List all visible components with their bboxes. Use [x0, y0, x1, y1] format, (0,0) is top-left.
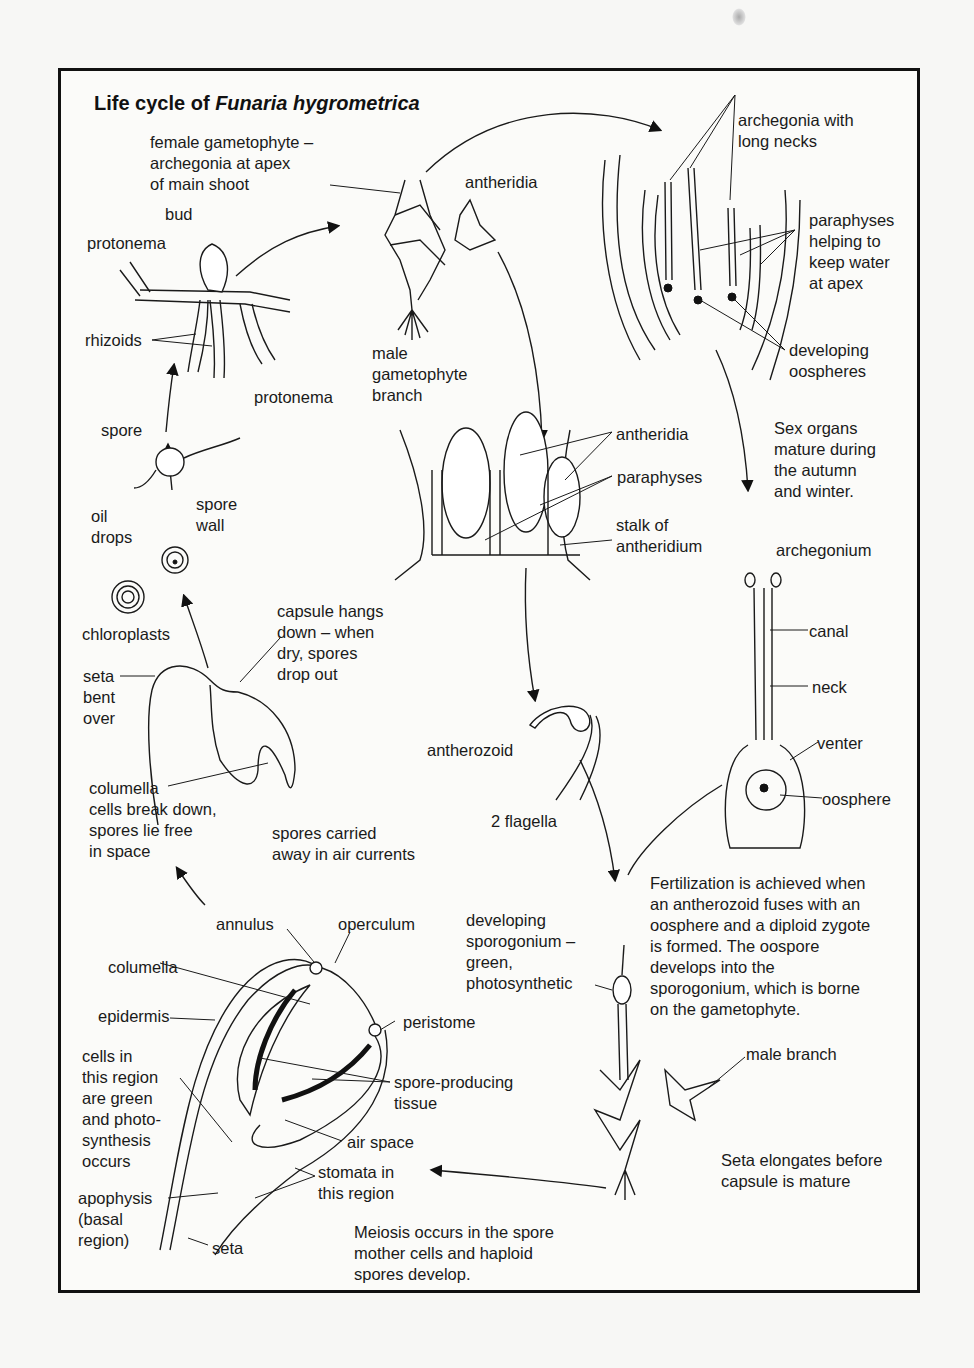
label-paraphyses-mid: paraphyses: [617, 467, 702, 488]
label-epidermis: epidermis: [98, 1006, 170, 1027]
label-male-gametophyte-branch: male gametophyte branch: [372, 343, 467, 406]
label-peristome: peristome: [403, 1012, 475, 1033]
label-protonema-mid: protonema: [254, 387, 333, 408]
label-canal: canal: [809, 621, 848, 642]
label-meiosis: Meiosis occurs in the spore mother cells…: [354, 1222, 554, 1285]
label-annulus: annulus: [216, 914, 274, 935]
label-antheridia-mid: antheridia: [616, 424, 688, 445]
label-male-branch: male branch: [746, 1044, 837, 1065]
label-venter: venter: [817, 733, 863, 754]
label-neck: neck: [812, 677, 847, 698]
label-stalk-of-antheridium: stalk of antheridium: [616, 515, 702, 557]
label-seta-bent-over: seta bent over: [83, 666, 115, 729]
label-spore-producing-tissue: spore-producing tissue: [394, 1072, 513, 1114]
archegonia-cluster-drawing: [603, 155, 800, 380]
label-seta-elongates: Seta elongates before capsule is mature: [721, 1150, 882, 1192]
label-columella: columella: [108, 957, 178, 978]
label-developing-oospheres: developing oospheres: [789, 340, 869, 382]
label-oosphere: oosphere: [822, 789, 891, 810]
label-operculum: operculum: [338, 914, 415, 935]
label-spore-wall: spore wall: [196, 494, 237, 536]
label-air-space: air space: [347, 1132, 414, 1153]
antherozoid-drawing: [530, 706, 600, 800]
label-rhizoids: rhizoids: [85, 330, 142, 351]
label-capsule-hangs: capsule hangs down – when dry, spores dr…: [277, 601, 383, 685]
label-bud: bud: [165, 204, 193, 225]
label-sex-organs-mature: Sex organs mature during the autumn and …: [774, 418, 876, 502]
label-protonema-top: protonema: [87, 233, 166, 254]
capsule-section-drawing: [160, 960, 387, 1255]
gametophyte-drawing: [385, 180, 495, 340]
label-female-gametophyte: female gametophyte – archegonia at apex …: [150, 132, 313, 195]
label-antheridia-top: antheridia: [465, 172, 537, 193]
label-columella-break-down: columella cells break down, spores lie f…: [89, 778, 216, 862]
label-seta: seta: [212, 1238, 243, 1259]
label-stomata: stomata in this region: [318, 1162, 394, 1204]
label-spore: spore: [101, 420, 142, 441]
protonema-with-bud-drawing: [120, 244, 290, 378]
label-developing-sporogonium: developing sporogonium – green, photosyn…: [466, 910, 575, 994]
label-oil-drops: oil drops: [91, 506, 132, 548]
archegonium-detail-drawing: [725, 573, 804, 848]
label-cells-green-region: cells in this region are green and photo…: [82, 1046, 161, 1172]
label-archegonia-long-necks: archegonia with long necks: [738, 110, 854, 152]
label-fertilization: Fertilization is achieved when an anther…: [650, 873, 870, 1020]
label-archegonium: archegonium: [776, 540, 871, 561]
antheridia-cluster-drawing: [395, 412, 590, 580]
label-spores-carried: spores carried away in air currents: [272, 823, 415, 865]
label-antherozoid: antherozoid: [427, 740, 513, 761]
label-two-flagella: 2 flagella: [491, 811, 557, 832]
label-paraphyses-water: paraphyses helping to keep water at apex: [809, 210, 894, 294]
label-apophysis: apophysis (basal region): [78, 1188, 152, 1251]
label-chloroplasts: chloroplasts: [82, 624, 170, 645]
diagram-title: Life cycle of Funaria hygrometrica: [94, 92, 420, 115]
